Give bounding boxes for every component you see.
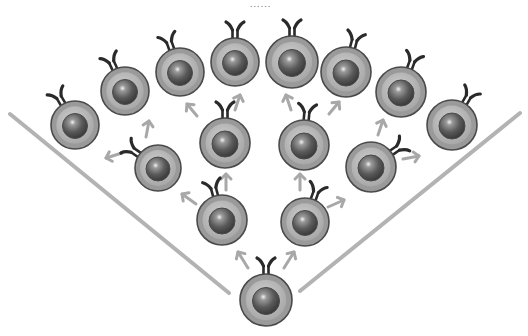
nucleus: [113, 80, 138, 105]
cell-mid-4: [346, 136, 410, 192]
cell-differentiation-diagram: [0, 0, 528, 336]
arrow-icon: [328, 197, 344, 207]
nucleus: [439, 113, 465, 139]
nucleus: [333, 60, 359, 86]
nucleus: [63, 114, 88, 139]
nucleus: [358, 155, 384, 181]
cell-mid-3: [279, 103, 329, 170]
cells: [47, 20, 480, 326]
nucleus: [212, 131, 238, 157]
arrow-icon: [295, 174, 305, 190]
arrow-icon: [403, 152, 419, 162]
arrow-icon: [284, 252, 296, 268]
cell-lower-right: [281, 181, 329, 246]
cell-mid-2: [200, 102, 250, 168]
nucleus: [278, 49, 305, 76]
nucleus: [388, 80, 414, 106]
cell-outer-1: [47, 86, 99, 149]
cell-mid-1: [121, 138, 181, 191]
cell-outer-8: [427, 85, 480, 150]
cell-outer-6: [321, 30, 371, 97]
nucleus: [293, 211, 318, 236]
nucleus: [223, 51, 248, 76]
arrow-icon: [143, 121, 153, 137]
arrow-icon: [283, 95, 292, 110]
cell-outer-5: [266, 20, 318, 88]
cell-outer-7: [376, 50, 426, 117]
arrow-icon: [221, 174, 231, 190]
arrow-icon: [236, 252, 248, 268]
cell-outer-3: [156, 31, 204, 96]
arrow-icon: [377, 120, 386, 135]
diagram-stage: ......: [0, 0, 528, 336]
nucleus: [291, 133, 317, 159]
arrow-icon: [186, 104, 197, 116]
nucleus: [168, 61, 193, 86]
nucleus: [209, 208, 235, 234]
nucleus: [146, 157, 170, 181]
arrow-icon: [182, 193, 196, 204]
cell-lower-left: [197, 178, 247, 245]
arrow-icon: [329, 102, 340, 114]
boundary-line: [300, 113, 520, 291]
nucleus: [252, 287, 279, 314]
cell-outer-2: [100, 51, 149, 115]
cell-outer-4: [211, 22, 259, 86]
